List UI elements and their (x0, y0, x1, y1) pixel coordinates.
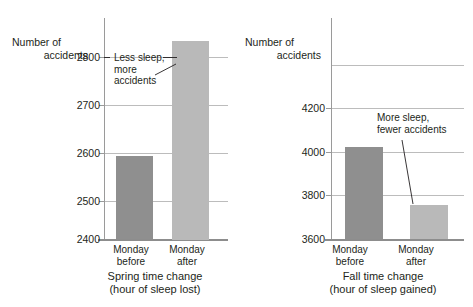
x-axis-title-spring-line1: Spring time change (74, 270, 236, 283)
x-axis-title-fall-line1: Fall time change (295, 270, 471, 283)
double-bar-chart-figure: Number of accidents 2800 27 (0, 0, 473, 307)
x-axis-title-fall-line2: (hour of sleep gained) (295, 283, 471, 296)
x-axis-title-spring-line2: (hour of sleep lost) (74, 283, 236, 296)
chart-panel-spring: Number of accidents 2800 27 (0, 0, 237, 307)
category-label-fall-after: Monday after (377, 244, 455, 267)
category-label-spring-after-line2: after (148, 256, 226, 268)
category-label-fall-after-line1: Monday (377, 244, 455, 256)
x-axis-title-fall: Fall time change (hour of sleep gained) (295, 270, 471, 296)
category-label-spring-after: Monday after (148, 244, 226, 267)
chart-panel-fall: Number of accidents 4200 4000 (237, 0, 473, 307)
x-axis-title-spring: Spring time change (hour of sleep lost) (74, 270, 236, 296)
category-label-fall-after-line2: after (377, 256, 455, 268)
category-label-spring-after-line1: Monday (148, 244, 226, 256)
